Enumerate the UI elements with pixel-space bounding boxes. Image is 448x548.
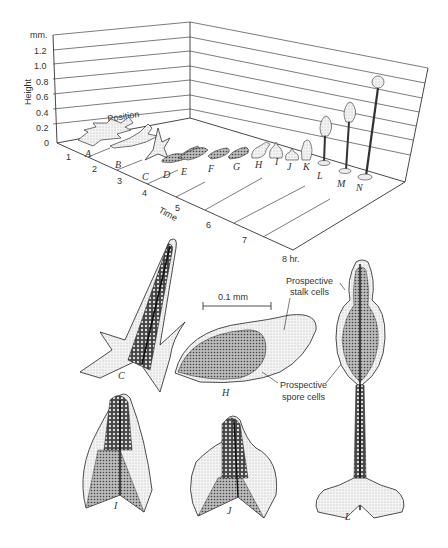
time-tick-6: 6 xyxy=(206,220,211,230)
y-tick-0.6: 0.6 xyxy=(36,92,49,102)
stage-label-j: J xyxy=(287,161,292,172)
y-tick-1.0: 1.0 xyxy=(34,61,47,71)
drawing-h-label: H xyxy=(221,387,230,398)
time-tick-7: 7 xyxy=(242,235,247,245)
y-axis-label: Height xyxy=(23,78,33,105)
scale-bar-label: 0.1 mm xyxy=(218,292,248,302)
y-tick-1.2: 1.2 xyxy=(34,46,47,56)
scale-bar xyxy=(203,302,271,310)
y-tick-0.8: 0.8 xyxy=(36,77,49,87)
stage-label-g: G xyxy=(233,161,240,172)
time-tick-4: 4 xyxy=(142,188,147,198)
stage-label-h: H xyxy=(254,159,263,170)
stage-label-i: I xyxy=(274,156,279,167)
y-unit-label: mm. xyxy=(30,30,48,40)
growth-chart: mm. 1.2 1.0 0.8 0.6 0.4 0.2 0 Height Pos… xyxy=(23,22,428,264)
time-tick-3: 3 xyxy=(117,176,122,186)
y-tick-0: 0 xyxy=(44,138,49,148)
detail-drawings: C H 0.1 mm Prospective stalk cells Prosp… xyxy=(80,239,404,522)
stage-label-b: B xyxy=(115,159,121,170)
stalk-cells-label-line1: Prospective xyxy=(286,276,333,286)
drawing-h xyxy=(175,315,316,383)
spore-cells-leader-right xyxy=(326,362,343,383)
stage-label-n: N xyxy=(355,182,364,193)
drawing-i-label: I xyxy=(113,500,118,511)
stage-label-f: F xyxy=(207,163,215,174)
time-tick-2: 2 xyxy=(92,164,97,174)
drawing-j-label: J xyxy=(227,505,232,516)
stage-label-k: K xyxy=(302,161,311,172)
stage-label-e: E xyxy=(180,166,187,177)
drawing-l xyxy=(316,260,404,518)
stage-label-d: D xyxy=(162,169,171,180)
drawing-j xyxy=(190,416,276,518)
stage-label-a: A xyxy=(84,148,92,159)
time-tick-1: 1 xyxy=(66,152,71,162)
stage-label-l: L xyxy=(316,170,323,181)
spore-cells-label-line2: spore cells xyxy=(282,392,326,402)
y-tick-0.4: 0.4 xyxy=(36,108,49,118)
stage-label-m: M xyxy=(336,178,346,189)
drawing-c xyxy=(80,239,185,392)
drawing-l-label: L xyxy=(344,511,351,522)
stage-shapes xyxy=(78,76,384,180)
y-tick-0.2: 0.2 xyxy=(36,123,49,133)
stalk-cells-leader-right xyxy=(340,283,345,290)
drawing-c-label: C xyxy=(118,370,125,381)
spore-cells-label-line1: Prospective xyxy=(280,380,327,390)
time-tick-8hr: 8 hr. xyxy=(282,254,300,264)
stage-label-c: C xyxy=(142,171,149,182)
figure: mm. 1.2 1.0 0.8 0.6 0.4 0.2 0 Height Pos… xyxy=(0,0,448,548)
stalk-cells-label-line2: stalk cells xyxy=(290,287,330,297)
drawing-i xyxy=(83,394,152,512)
